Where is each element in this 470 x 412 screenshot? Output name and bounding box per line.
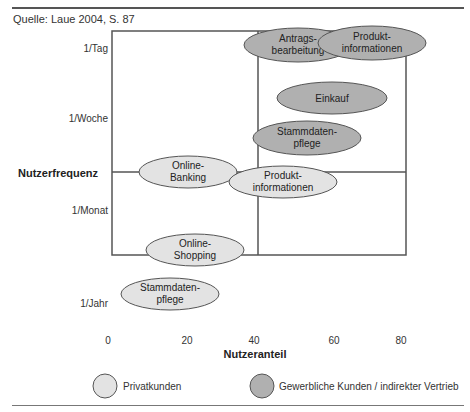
svg-text:Produkt-: Produkt-: [264, 170, 302, 181]
svg-text:informationen: informationen: [253, 182, 314, 193]
bubble-online-banking: Online- Banking: [139, 156, 237, 188]
svg-text:Online-: Online-: [172, 160, 204, 171]
svg-text:Produkt-: Produkt-: [353, 31, 391, 42]
svg-text:Antrags-: Antrags-: [279, 33, 317, 44]
svg-text:Banking: Banking: [170, 172, 206, 183]
y-tick: 1/Tag: [84, 43, 108, 54]
legend-label: Gewerbliche Kunden / indirekter Vertrieb: [279, 381, 459, 392]
x-tick: 40: [248, 335, 260, 346]
svg-text:pflege: pflege: [156, 294, 184, 305]
legend-swatch-business: [250, 374, 274, 398]
y-tick: 1/Jahr: [80, 298, 108, 309]
bubble-online-shopping: Online- Shopping: [146, 234, 244, 266]
x-tick: 80: [395, 335, 407, 346]
y-tick: 1/Monat: [72, 205, 108, 216]
x-tick: 20: [181, 335, 193, 346]
y-tick: 1/Woche: [69, 113, 109, 124]
bubble-stammdatenpflege-business: Stammdaten- pflege: [253, 121, 361, 155]
svg-text:Shopping: Shopping: [174, 250, 216, 261]
bottom-rule: [12, 405, 464, 406]
svg-text:Stammdaten-: Stammdaten-: [277, 126, 337, 137]
svg-text:bearbeitung: bearbeitung: [272, 45, 325, 56]
svg-text:pflege: pflege: [293, 138, 321, 149]
bubble-einkauf: Einkauf: [277, 82, 387, 114]
y-axis-label: Nutzerfrequenz: [18, 167, 99, 179]
legend: Privatkunden Gewerbliche Kunden / indire…: [93, 374, 459, 398]
legend-label: Privatkunden: [123, 381, 181, 392]
bubble-produktinformationen-private: Produkt- informationen: [229, 166, 337, 198]
x-tick: 60: [328, 335, 340, 346]
bubble-produktinformationen-business: Produkt- informationen: [318, 26, 426, 60]
x-axis-label: Nutzeranteil: [224, 348, 287, 360]
bubble-stammdatenpflege-private: Stammdaten- pflege: [121, 278, 219, 310]
x-tick: 0: [105, 335, 111, 346]
svg-text:informationen: informationen: [342, 43, 403, 54]
legend-swatch-private: [93, 374, 117, 398]
svg-text:Stammdaten-: Stammdaten-: [140, 282, 200, 293]
chart: 1/Tag 1/Woche 1/Monat 1/Jahr Nutzerfrequ…: [0, 0, 470, 412]
svg-text:Einkauf: Einkauf: [315, 93, 349, 104]
svg-text:Online-: Online-: [179, 238, 211, 249]
